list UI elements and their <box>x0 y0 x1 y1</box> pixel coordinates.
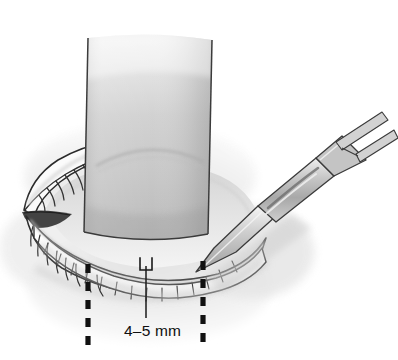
corneal-protector-plate <box>80 28 220 250</box>
medical-illustration-figure: 4–5 mm <box>0 0 398 360</box>
eyelid-incision-illustration: 4–5 mm <box>0 0 398 360</box>
dimension-label: 4–5 mm <box>124 322 181 339</box>
